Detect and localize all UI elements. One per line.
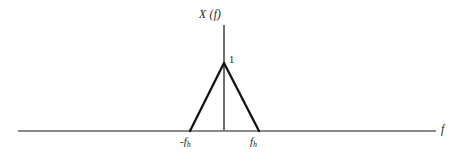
peak-amplitude-label: 1 bbox=[229, 55, 234, 66]
triangle-left-edge bbox=[190, 63, 224, 131]
tick-label-negative-fh-subscript: h bbox=[187, 140, 191, 149]
tick-label-negative-fh: -fh bbox=[180, 136, 191, 149]
x-axis-label: f bbox=[441, 124, 444, 136]
tick-label-positive-fh-subscript: h bbox=[253, 140, 257, 149]
plot-canvas bbox=[0, 0, 465, 162]
triangle-right-edge bbox=[224, 63, 259, 131]
y-axis-label: X (f) bbox=[199, 9, 221, 21]
spectrum-figure: X (f) 1 -fh fh f bbox=[0, 0, 465, 162]
tick-label-positive-fh: fh bbox=[250, 136, 257, 149]
tick-label-negative-fh-base: -f bbox=[180, 135, 187, 147]
